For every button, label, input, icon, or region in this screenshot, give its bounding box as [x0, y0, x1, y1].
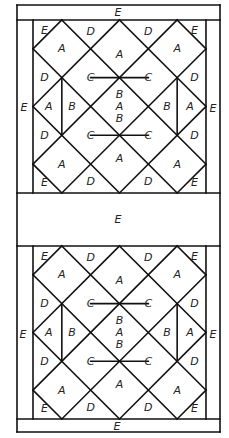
diagonal-seam: [33, 49, 177, 193]
piece-label-b: B: [116, 112, 124, 125]
piece-label-e: E: [191, 402, 198, 415]
lower-left-side-label: E: [20, 328, 27, 341]
piece-label-d: D: [40, 355, 48, 368]
piece-label-a: A: [57, 384, 66, 397]
piece-label-c: C: [144, 355, 152, 368]
piece-label-c: C: [87, 355, 95, 368]
piece-label-a: A: [44, 326, 53, 339]
piece-label-a: A: [115, 378, 124, 391]
piece-label-a: A: [172, 268, 181, 281]
piece-label-a: A: [115, 48, 124, 61]
lower-block: EADADAEBDCCDABABADCCDBAAAEDDE: [33, 246, 206, 419]
upper-right-side-label: E: [210, 102, 217, 115]
piece-label-a: A: [57, 158, 66, 171]
piece-label-e: E: [41, 402, 48, 415]
piece-label-d: D: [86, 251, 94, 264]
lower-right-side-label: E: [210, 328, 217, 341]
piece-label-d: D: [144, 401, 152, 414]
piece-label-a: A: [172, 384, 181, 397]
piece-label-d: D: [40, 297, 48, 310]
piece-label-a: A: [115, 274, 124, 287]
diagonal-seam: [33, 246, 177, 390]
middle-sashing-label: E: [115, 213, 122, 226]
piece-label-e: E: [41, 176, 48, 189]
quilt-diagram: EADADAEBDCCDABABADCCDBAAAEDDEEADADAEBDCC…: [0, 0, 229, 438]
piece-label-d: D: [190, 71, 198, 84]
piece-label-b: B: [116, 338, 124, 351]
piece-label-c: C: [144, 129, 152, 142]
piece-label-a: A: [57, 42, 66, 55]
upper-left-side-label: E: [21, 101, 28, 114]
piece-label-d: D: [190, 129, 198, 142]
piece-label-c: C: [87, 297, 95, 310]
piece-label-e: E: [191, 250, 198, 263]
piece-label-a: A: [172, 42, 181, 55]
piece-label-b: B: [68, 326, 76, 339]
bottom-border-label: E: [114, 420, 121, 433]
piece-label-b: B: [68, 100, 76, 113]
piece-labels: E E E E E E E: [20, 6, 217, 433]
piece-label-b: B: [163, 100, 171, 113]
piece-label-c: C: [144, 71, 152, 84]
piece-label-a: A: [115, 152, 124, 165]
piece-label-a: A: [44, 100, 53, 113]
piece-label-d: D: [190, 355, 198, 368]
piece-label-d: D: [86, 401, 94, 414]
piece-label-c: C: [87, 71, 95, 84]
piece-label-a: A: [185, 326, 194, 339]
piece-label-e: E: [41, 24, 48, 37]
piece-label-a: A: [172, 158, 181, 171]
diagonal-seam: [62, 20, 206, 164]
diagonal-seam: [62, 246, 206, 390]
piece-label-d: D: [144, 25, 152, 38]
diagonal-seam: [33, 275, 177, 419]
piece-label-d: D: [86, 25, 94, 38]
piece-label-a: A: [57, 268, 66, 281]
piece-label-e: E: [191, 176, 198, 189]
piece-label-a: A: [185, 100, 194, 113]
piece-label-d: D: [190, 297, 198, 310]
diagonal-seam: [62, 49, 206, 193]
piece-label-d: D: [40, 129, 48, 142]
piece-label-b: B: [163, 326, 171, 339]
piece-label-c: C: [144, 297, 152, 310]
piece-label-d: D: [40, 71, 48, 84]
piece-label-d: D: [144, 251, 152, 264]
piece-label-c: C: [87, 129, 95, 142]
top-border-label: E: [115, 6, 122, 19]
upper-block: EADADAEBDCCDABABADCCDBAAAEDDE: [33, 20, 206, 193]
piece-label-d: D: [86, 175, 94, 188]
diagonal-seam: [33, 20, 177, 164]
piece-label-e: E: [191, 24, 198, 37]
piece-label-d: D: [144, 175, 152, 188]
piece-label-e: E: [41, 250, 48, 263]
diagonal-seam: [62, 275, 206, 419]
